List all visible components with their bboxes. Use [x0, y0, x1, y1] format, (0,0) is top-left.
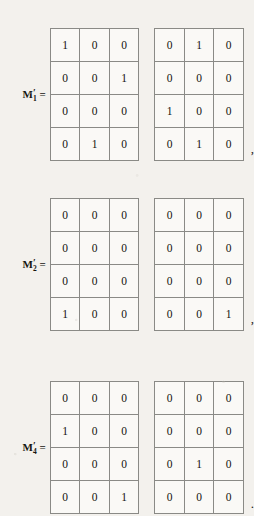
matrix-row: 010: [155, 448, 243, 481]
equation-label-4: M′4=: [0, 440, 50, 456]
matrix-cell: 0: [184, 382, 213, 415]
matrix-cell: 0: [155, 128, 184, 161]
matrix-cell: 0: [80, 448, 109, 481]
matrix-cell: 1: [50, 29, 79, 62]
matrix-cell: 0: [155, 298, 184, 331]
matrix-cell: 0: [214, 415, 243, 448]
matrix-row: 000: [50, 448, 138, 481]
equation-punctuation: .: [244, 497, 254, 514]
matrix-cell: 0: [214, 62, 243, 95]
matrix-symbol: M: [22, 88, 33, 100]
equation-label-2: M′2=: [0, 257, 50, 273]
matrix-row: 000: [50, 382, 138, 415]
matrix-row: 000: [155, 415, 243, 448]
matrix-cell: 1: [155, 95, 184, 128]
matrix-cell: 0: [50, 448, 79, 481]
matrix-cell: 0: [80, 199, 109, 232]
matrix-cell: 0: [109, 128, 138, 161]
matrix-cell: 0: [214, 128, 243, 161]
matrix-cell: 0: [109, 415, 138, 448]
matrix-row: 100: [50, 415, 138, 448]
matrix-subscript: 2: [33, 264, 37, 273]
matrix-cell: 0: [109, 199, 138, 232]
matrix-row: 100: [50, 298, 138, 331]
matrix-left: 100001000010: [50, 28, 139, 161]
matrix-cell: 0: [155, 62, 184, 95]
matrix-cell: 0: [80, 265, 109, 298]
matrix-cell: 0: [109, 265, 138, 298]
matrix-cell: 1: [50, 415, 79, 448]
matrix-cell: 0: [155, 199, 184, 232]
matrix-row: 010: [50, 128, 138, 161]
matrix-cell: 0: [214, 199, 243, 232]
matrix-cell: 0: [184, 298, 213, 331]
matrix-cell: 0: [109, 448, 138, 481]
matrix-cell: 0: [50, 199, 79, 232]
matrix-cell: 0: [109, 298, 138, 331]
matrix-row: 000: [50, 199, 138, 232]
matrix-cell: 0: [155, 232, 184, 265]
matrix-cell: 0: [50, 95, 79, 128]
matrix-cell: 1: [184, 128, 213, 161]
matrix-cell: 0: [80, 62, 109, 95]
matrix-row: 100: [155, 95, 243, 128]
matrix-cell: 0: [50, 382, 79, 415]
matrix-cell: 0: [214, 481, 243, 514]
matrix-cell: 0: [50, 62, 79, 95]
matrix-subscript: 4: [33, 447, 37, 456]
matrix-cell: 0: [80, 415, 109, 448]
matrix-cell: 1: [109, 481, 138, 514]
matrix-row: 100: [50, 29, 138, 62]
matrix-cell: 0: [50, 232, 79, 265]
matrix-row: 000: [155, 199, 243, 232]
matrix-row: 000: [155, 382, 243, 415]
matrix-cell: 1: [184, 448, 213, 481]
matrix-right: 000000010000: [154, 381, 243, 514]
equation-punctuation: ,: [244, 312, 254, 331]
equals-sign: =: [39, 441, 45, 453]
equation-punctuation: ,: [244, 142, 254, 161]
matrix-cell: 1: [214, 298, 243, 331]
matrix-row: 000: [50, 232, 138, 265]
equals-sign: =: [39, 258, 45, 270]
matrix-cell: 0: [109, 95, 138, 128]
matrix-row: 000: [50, 265, 138, 298]
matrix-row: 001: [155, 298, 243, 331]
matrix-row: 010: [155, 29, 243, 62]
equals-sign: =: [39, 88, 45, 100]
matrix-cell: 1: [184, 29, 213, 62]
matrix-cell: 0: [80, 95, 109, 128]
matrix-cell: 0: [155, 382, 184, 415]
matrix-cell: 0: [50, 265, 79, 298]
matrix-cell: 0: [50, 481, 79, 514]
matrix-cell: 0: [80, 232, 109, 265]
matrix-cell: 0: [184, 415, 213, 448]
matrix-cell: 0: [80, 382, 109, 415]
matrix-symbol: M: [22, 441, 33, 453]
matrix-right: 000000000001: [154, 198, 243, 331]
matrix-cell: 1: [50, 298, 79, 331]
matrix-cell: 0: [214, 232, 243, 265]
matrix-cell: 0: [109, 29, 138, 62]
equation-row: M′4=000100000001000000010000.: [0, 381, 254, 514]
matrix-cell: 0: [155, 29, 184, 62]
matrix-cell: 0: [214, 265, 243, 298]
matrix-cell: 0: [80, 481, 109, 514]
matrix-cell: 0: [109, 232, 138, 265]
equation-row: M′2=000000000100000000000001,: [0, 198, 254, 331]
matrix-cell: 0: [80, 298, 109, 331]
matrix-cell: 1: [80, 128, 109, 161]
matrix-row: 001: [50, 62, 138, 95]
matrix-left: 000000000100: [50, 198, 139, 331]
matrix-left: 000100000001: [50, 381, 139, 514]
matrix-cell: 0: [214, 448, 243, 481]
matrix-symbol: M: [22, 258, 33, 270]
matrix-cell: 0: [214, 95, 243, 128]
equation-label-1: M′1=: [0, 87, 50, 103]
matrix-cell: 0: [214, 382, 243, 415]
matrix-cell: 1: [109, 62, 138, 95]
matrix-row: 000: [155, 265, 243, 298]
matrix-cell: 0: [50, 128, 79, 161]
matrix-cell: 0: [184, 95, 213, 128]
matrix-cell: 0: [184, 481, 213, 514]
